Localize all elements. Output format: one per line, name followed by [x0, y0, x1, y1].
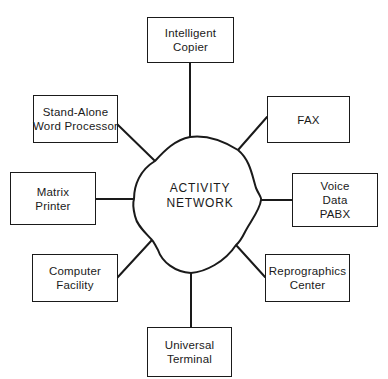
node-label-line: Universal	[165, 338, 215, 352]
node-fax: FAX	[267, 96, 350, 143]
node-label-line: Printer	[35, 199, 70, 213]
edge-stand-alone-word-processor	[117, 124, 155, 161]
node-label-line: PABX	[320, 207, 351, 221]
edge-fax	[238, 117, 267, 150]
hub-label-line-2: NETWORK	[145, 196, 255, 211]
hub-label-line-1: ACTIVITY	[145, 181, 255, 196]
node-label-line: Copier	[173, 40, 208, 54]
node-label-line: Computer	[49, 264, 101, 278]
edge-computer-facility	[117, 240, 152, 278]
node-label-line: Reprographics	[269, 264, 346, 278]
node-label-line: FAX	[297, 113, 319, 127]
node-label-line: Terminal	[167, 352, 212, 366]
node-voice-data-pabx: Voice Data PABX	[292, 173, 378, 227]
node-reprographics-center: Reprographics Center	[265, 254, 350, 302]
node-stand-alone-word-processor: Stand-Alone Word Processor	[33, 95, 118, 143]
node-label-line: Stand-Alone	[43, 105, 109, 119]
hub-label-activity-network: ACTIVITY NETWORK	[145, 181, 255, 211]
node-universal-terminal: Universal Terminal	[147, 327, 232, 377]
node-label-line: Center	[290, 278, 326, 292]
node-label-line: Word Processor	[33, 119, 118, 133]
node-intelligent-copier: Intelligent Copier	[147, 17, 234, 63]
activity-network-diagram: ACTIVITY NETWORK Intelligent Copier Stan…	[0, 0, 388, 379]
node-label-line: Data	[322, 193, 347, 207]
edge-reprographics-center	[236, 245, 265, 277]
node-matrix-printer: Matrix Printer	[10, 172, 96, 225]
node-computer-facility: Computer Facility	[32, 254, 118, 302]
node-label-line: Matrix	[37, 185, 70, 199]
node-label-line: Voice	[320, 179, 349, 193]
node-label-line: Facility	[56, 278, 93, 292]
node-label-line: Intelligent	[165, 26, 216, 40]
